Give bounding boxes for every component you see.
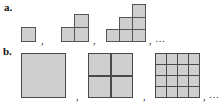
grid-divider-horizontal xyxy=(156,86,199,87)
separator-comma: , xyxy=(76,92,79,102)
row-a-ellipsis: … xyxy=(155,34,166,44)
unit-cell xyxy=(61,27,75,42)
unit-cell xyxy=(119,17,133,30)
separator-comma: , xyxy=(93,36,96,46)
unit-cell xyxy=(74,14,89,28)
figure-canvas: a. , , , … b. xyxy=(0,0,224,104)
unit-cell xyxy=(106,29,120,42)
row-a-term-2 xyxy=(61,14,89,42)
unit-cell xyxy=(132,4,146,18)
grid-divider-horizontal xyxy=(156,64,199,65)
unit-cell xyxy=(74,27,89,42)
separator-comma: , xyxy=(143,92,146,102)
unit-cell xyxy=(119,29,133,42)
grid-divider-horizontal xyxy=(156,75,199,76)
row-label-b: b. xyxy=(3,46,12,57)
row-label-a: a. xyxy=(4,2,12,13)
row-b-term-2 xyxy=(88,53,133,98)
unit-cell xyxy=(21,27,36,42)
row-a-term-3 xyxy=(106,4,146,42)
row-b-ellipsis: … xyxy=(209,90,220,100)
row-b-term-1 xyxy=(21,53,66,98)
separator-comma: , xyxy=(203,92,206,102)
unit-cell xyxy=(132,17,146,30)
separator-comma: , xyxy=(149,36,152,46)
separator-comma: , xyxy=(41,36,44,46)
unit-cell xyxy=(132,29,146,42)
row-a-term-1 xyxy=(21,27,36,42)
grid-divider-horizontal xyxy=(89,75,132,77)
row-b-term-3 xyxy=(155,53,200,98)
